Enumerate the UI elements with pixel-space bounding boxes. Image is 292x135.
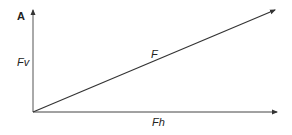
vector-diagram xyxy=(0,0,292,135)
resultant-force-arrow xyxy=(33,10,275,112)
resultant-label: F xyxy=(151,49,158,60)
horizontal-component-label: Fh xyxy=(152,117,165,128)
vertical-component-label: Fv xyxy=(17,57,29,68)
corner-label: A xyxy=(17,11,25,22)
